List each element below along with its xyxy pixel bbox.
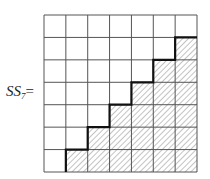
hatched-cell	[88, 150, 110, 172]
hatched-cell	[88, 127, 110, 149]
hatched-cell	[131, 82, 153, 104]
hatched-cell	[131, 150, 153, 172]
hatched-cell	[175, 82, 197, 104]
hatched-cell	[175, 127, 197, 149]
hatched-cell	[66, 150, 88, 172]
hatched-cell	[175, 37, 197, 59]
hatched-cell	[175, 150, 197, 172]
hatched-cell	[131, 105, 153, 127]
hatched-cell	[110, 127, 132, 149]
hatched-cell	[110, 105, 132, 127]
staircase-grid	[0, 0, 210, 179]
hatched-cell	[153, 105, 175, 127]
hatched-cell	[153, 60, 175, 82]
hatched-cell	[131, 127, 153, 149]
hatched-cell	[175, 105, 197, 127]
hatched-cell	[153, 82, 175, 104]
hatched-cell	[153, 127, 175, 149]
hatched-cell	[153, 150, 175, 172]
hatched-cell	[110, 150, 132, 172]
hatched-cell	[175, 60, 197, 82]
